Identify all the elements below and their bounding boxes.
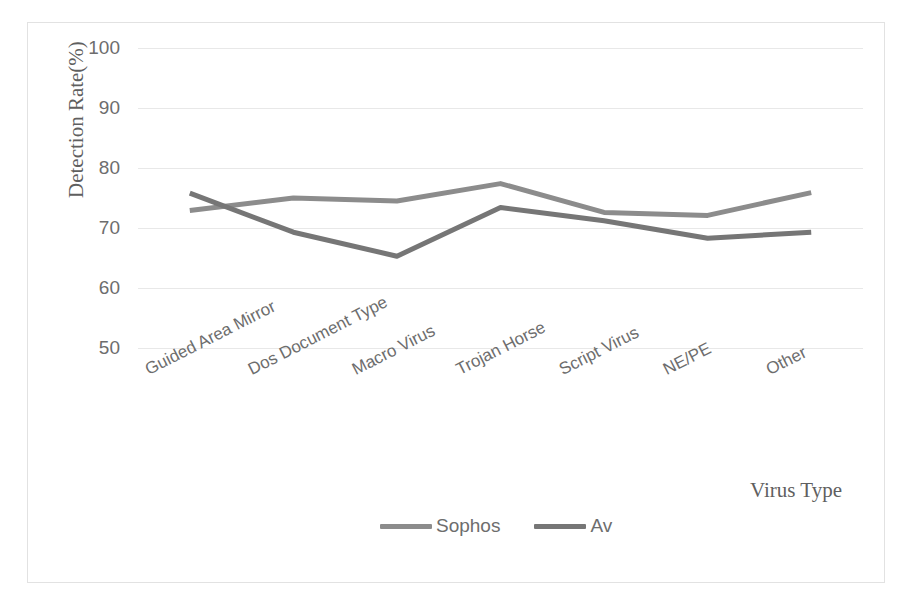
legend-item-av[interactable]: Av	[534, 515, 612, 537]
series-lines	[138, 48, 863, 348]
y-axis-tick-label: 60	[50, 277, 120, 299]
legend-label: Av	[590, 515, 612, 537]
y-axis-tick-label: 100	[50, 37, 120, 59]
chart-figure: Detection Rate(%) 1009080706050 Guided A…	[27, 22, 885, 583]
legend-item-sophos[interactable]: Sophos	[380, 515, 500, 537]
y-axis-tick-label: 70	[50, 217, 120, 239]
y-axis-tick-label: 90	[50, 97, 120, 119]
y-axis-tick-label: 80	[50, 157, 120, 179]
x-axis-title: Virus Type	[750, 478, 842, 503]
legend-label: Sophos	[436, 515, 500, 537]
y-axis-tick-label: 50	[50, 337, 120, 359]
legend-swatch-icon	[380, 524, 432, 529]
series-line-av	[190, 193, 811, 256]
plot-area: 1009080706050	[138, 48, 863, 348]
series-line-sophos	[190, 184, 811, 216]
chart-legend: SophosAv	[380, 515, 612, 537]
legend-swatch-icon	[534, 524, 586, 529]
